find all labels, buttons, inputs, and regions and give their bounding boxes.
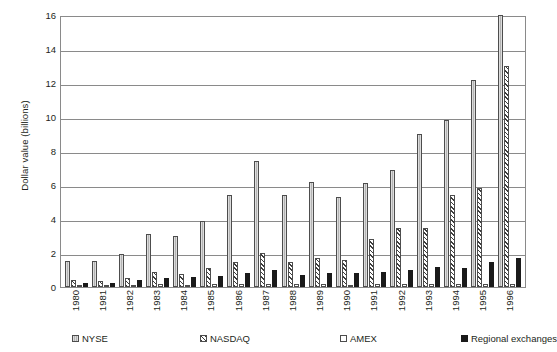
bar-amex-1994[interactable] xyxy=(456,284,461,287)
bar-nyse-1984[interactable] xyxy=(173,236,178,287)
bar-amex-1992[interactable] xyxy=(402,284,407,287)
bar-nyse-1985[interactable] xyxy=(200,221,205,287)
bar-amex-1993[interactable] xyxy=(429,284,434,287)
bar-regional-1989[interactable] xyxy=(327,273,332,287)
bar-regional-1986[interactable] xyxy=(245,273,250,287)
bar-amex-1995[interactable] xyxy=(483,284,488,287)
bar-regional-1980[interactable] xyxy=(83,283,88,287)
bar-regional-1985[interactable] xyxy=(218,276,223,287)
y-axis-tick-10: 10 xyxy=(45,113,56,123)
bar-amex-1988[interactable] xyxy=(294,284,299,287)
bar-amex-1985[interactable] xyxy=(212,284,217,287)
bar-nasdaq-1996[interactable] xyxy=(504,66,509,287)
bar-regional-1994[interactable] xyxy=(462,268,467,287)
bar-nasdaq-1987[interactable] xyxy=(260,253,265,287)
bar-nasdaq-1985[interactable] xyxy=(206,268,211,287)
bar-group-1996 xyxy=(496,17,523,287)
y-axis-tick-0: 0 xyxy=(51,283,56,293)
bar-regional-1993[interactable] xyxy=(435,267,440,287)
bar-nyse-1982[interactable] xyxy=(119,254,124,287)
bar-regional-1988[interactable] xyxy=(300,275,305,287)
bar-regional-1981[interactable] xyxy=(110,283,115,287)
x-axis-tick-1986: 1986 xyxy=(234,290,244,311)
bar-amex-1990[interactable] xyxy=(348,285,353,287)
x-axis-tick-1994: 1994 xyxy=(451,290,461,311)
bar-nasdaq-1989[interactable] xyxy=(315,258,320,287)
bar-nyse-1983[interactable] xyxy=(146,234,151,287)
bar-group-1990 xyxy=(334,17,361,287)
bar-nyse-1980[interactable] xyxy=(65,261,70,287)
bar-amex-1980[interactable] xyxy=(77,285,82,287)
legend-item-nasdaq[interactable]: NASDAQ xyxy=(200,333,250,344)
bar-nyse-1987[interactable] xyxy=(254,161,259,287)
bar-nyse-1994[interactable] xyxy=(444,120,449,287)
bar-nasdaq-1994[interactable] xyxy=(450,195,455,287)
bar-nyse-1981[interactable] xyxy=(92,261,97,287)
bar-nyse-1988[interactable] xyxy=(282,195,287,287)
x-axis-tick-1981: 1981 xyxy=(98,290,108,311)
legend-swatch-icon-nasdaq xyxy=(200,335,207,342)
bar-nasdaq-1988[interactable] xyxy=(288,262,293,288)
bar-regional-1990[interactable] xyxy=(354,273,359,287)
bar-amex-1986[interactable] xyxy=(239,284,244,287)
bar-nyse-1990[interactable] xyxy=(336,197,341,287)
bar-regional-1984[interactable] xyxy=(191,277,196,287)
bar-nyse-1992[interactable] xyxy=(390,170,395,287)
bar-amex-1981[interactable] xyxy=(104,285,109,287)
x-label-cell-1994: 1994 xyxy=(442,288,469,324)
bar-nasdaq-1990[interactable] xyxy=(342,260,347,287)
y-axis-tick-labels: 0246810121416 xyxy=(0,0,60,300)
x-axis-tick-1990: 1990 xyxy=(343,290,353,311)
bar-nyse-1986[interactable] xyxy=(227,195,232,287)
bar-amex-1991[interactable] xyxy=(375,284,380,287)
bar-regional-1983[interactable] xyxy=(164,278,169,287)
bar-nasdaq-1980[interactable] xyxy=(71,280,76,287)
y-axis-tick-16: 16 xyxy=(45,11,56,21)
bar-regional-1992[interactable] xyxy=(408,270,413,287)
bar-regional-1996[interactable] xyxy=(516,258,521,287)
legend-item-regional[interactable]: Regional exchanges xyxy=(461,333,557,344)
bar-nasdaq-1995[interactable] xyxy=(477,188,482,287)
bar-nyse-1989[interactable] xyxy=(309,182,314,287)
bar-amex-1983[interactable] xyxy=(158,284,163,287)
x-axis-tick-1992: 1992 xyxy=(397,290,407,311)
bar-nasdaq-1982[interactable] xyxy=(125,278,130,287)
legend-label: NASDAQ xyxy=(210,333,250,344)
bar-nyse-1995[interactable] xyxy=(471,80,476,287)
x-label-cell-1985: 1985 xyxy=(198,288,225,324)
legend-label: AMEX xyxy=(350,333,377,344)
bar-nasdaq-1993[interactable] xyxy=(423,228,428,288)
bar-regional-1991[interactable] xyxy=(381,272,386,287)
bar-amex-1996[interactable] xyxy=(510,284,515,287)
bar-nasdaq-1986[interactable] xyxy=(233,262,238,288)
bar-nasdaq-1984[interactable] xyxy=(179,274,184,287)
bar-amex-1989[interactable] xyxy=(321,284,326,287)
x-axis-tick-1991: 1991 xyxy=(370,290,380,311)
x-label-cell-1984: 1984 xyxy=(171,288,198,324)
bar-amex-1982[interactable] xyxy=(131,285,136,287)
bar-group-1980 xyxy=(63,17,90,287)
bar-regional-1987[interactable] xyxy=(272,270,277,287)
y-axis-tick-12: 12 xyxy=(45,79,56,89)
legend-item-nyse[interactable]: NYSE xyxy=(72,333,108,344)
y-axis-tick-4: 4 xyxy=(51,215,56,225)
bar-nasdaq-1983[interactable] xyxy=(152,272,157,287)
bar-regional-1995[interactable] xyxy=(489,262,494,288)
bar-nasdaq-1992[interactable] xyxy=(396,228,401,288)
bar-nyse-1991[interactable] xyxy=(363,183,368,287)
y-axis-tick-2: 2 xyxy=(51,249,56,259)
bar-regional-1982[interactable] xyxy=(137,280,142,287)
bar-nyse-1993[interactable] xyxy=(417,134,422,287)
x-axis-tick-1988: 1988 xyxy=(288,290,298,311)
bar-amex-1987[interactable] xyxy=(266,284,271,287)
legend-label: NYSE xyxy=(82,333,108,344)
bar-nasdaq-1991[interactable] xyxy=(369,239,374,287)
bar-nasdaq-1981[interactable] xyxy=(98,281,103,287)
bar-group-1986 xyxy=(225,17,252,287)
legend-swatch-icon-nyse xyxy=(72,335,79,342)
bar-nyse-1996[interactable] xyxy=(498,15,503,287)
x-label-cell-1981: 1981 xyxy=(89,288,116,324)
legend-swatch-icon-amex xyxy=(340,335,347,342)
legend-item-amex[interactable]: AMEX xyxy=(340,333,377,344)
bar-amex-1984[interactable] xyxy=(185,285,190,287)
